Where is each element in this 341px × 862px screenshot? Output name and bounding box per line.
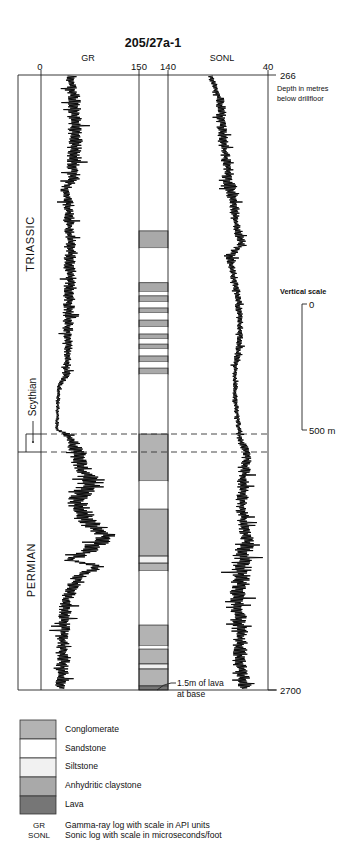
vertical-scale-title: Vertical scale	[280, 287, 326, 296]
lithology-sandstone	[139, 327, 168, 334]
lithology-lava	[139, 686, 168, 690]
lava-annotation-line1: 1.5m of lava	[177, 678, 224, 688]
lithology-sandstone	[139, 302, 168, 308]
legend-swatch-siltstone	[20, 758, 56, 777]
lithology-conglomerate	[139, 625, 168, 646]
lithology-sandstone	[139, 248, 168, 283]
vertical-scale-bar	[302, 304, 307, 430]
legend-label-siltstone: Siltstone	[65, 761, 98, 771]
period-label-triassic: TRIASSIC	[24, 216, 36, 272]
lithology-siltstone	[139, 556, 168, 563]
vertical-scale-bottom-label: 500 m	[309, 425, 335, 436]
lithology-sandstone	[139, 292, 168, 296]
legend-label-sandstone: Sandstone	[65, 743, 106, 753]
lithology-sandstone	[139, 313, 168, 320]
depth-caption-line1: Depth in metres	[277, 84, 329, 93]
lithology-anhydritic-claystone	[139, 308, 168, 313]
lithology-siltstone	[139, 664, 168, 669]
lithology-anhydritic-claystone	[139, 320, 168, 327]
lithology-conglomerate	[139, 669, 168, 686]
top-depth-label: 266	[280, 70, 296, 81]
period-label-permian: PERMIAN	[25, 543, 37, 597]
legend-swatch-anhydritic-claystone	[20, 777, 56, 796]
lithology-conglomerate	[139, 434, 168, 481]
well-log-figure: 205/27a-1 GR SONL 0 150 140 40 266 Depth…	[0, 0, 341, 862]
lithology-anhydritic-claystone	[139, 296, 168, 302]
lithology-column	[139, 75, 168, 690]
lithology-sandstone	[139, 362, 168, 368]
lithology-anhydritic-claystone	[139, 334, 168, 339]
legend-swatch-lava	[20, 796, 56, 814]
lithology-anhydritic-claystone	[139, 356, 168, 362]
sonl-curve	[208, 76, 262, 689]
lithology-sandstone	[139, 374, 168, 434]
legend-desc-sonl: Sonic log with scale in microseconds/foo…	[65, 830, 222, 840]
lithology-anhydritic-claystone	[139, 368, 168, 374]
vertical-scale-top-label: 0	[309, 299, 314, 310]
lithology-sandstone	[139, 339, 168, 344]
lithology-conglomerate	[139, 563, 168, 571]
gr-min-tick-label: 0	[37, 61, 42, 72]
depth-caption-line2: below drillfloor	[277, 94, 324, 103]
scythian-bracket	[18, 421, 41, 452]
lithology-anhydritic-claystone	[139, 283, 168, 292]
lithology-sandstone	[139, 75, 168, 231]
chart-title: 205/27a-1	[125, 36, 181, 50]
legend-label-conglomerate: Conglomerate	[65, 724, 119, 734]
legend-label-anhydritic-claystone: Anhydritic claystone	[65, 780, 142, 790]
lithology-conglomerate	[139, 509, 168, 556]
lava-annotation-line2: at base	[177, 689, 205, 699]
lithology-sandstone	[139, 571, 168, 625]
lithology-anhydritic-claystone	[139, 231, 168, 248]
legend-abbr-sonl: SONL	[28, 831, 50, 840]
legend-swatch-conglomerate	[20, 720, 56, 739]
lithology-sandstone	[139, 646, 168, 649]
lithology-conglomerate	[139, 649, 168, 664]
stage-label-scythian: Scythian	[27, 378, 38, 416]
lithology-sandstone	[139, 349, 168, 356]
sonl-track-label: SONL	[210, 53, 235, 63]
gr-track-label: GR	[81, 53, 95, 63]
legend-abbr-gr: GR	[33, 821, 45, 830]
legend-desc-gr: Gamma-ray log with scale in API units	[65, 820, 210, 830]
legend-swatch-sandstone	[20, 739, 56, 758]
lithology-anhydritic-claystone	[139, 344, 168, 349]
legend-label-lava: Lava	[65, 799, 84, 809]
lithology-sandstone	[139, 481, 168, 509]
bottom-depth-label: 2700	[280, 685, 301, 696]
gr-curve	[49, 76, 115, 689]
legend: Conglomerate Sandstone Siltstone Anhydri…	[20, 720, 222, 840]
